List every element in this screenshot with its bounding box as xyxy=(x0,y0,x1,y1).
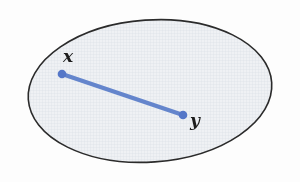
point-y-label: y xyxy=(190,112,200,129)
figure-canvas: x y xyxy=(0,0,300,182)
set-diagram-svg xyxy=(0,0,300,182)
point-x-marker xyxy=(58,70,67,79)
point-x-label: x xyxy=(63,48,73,65)
point-y-marker xyxy=(179,111,188,120)
